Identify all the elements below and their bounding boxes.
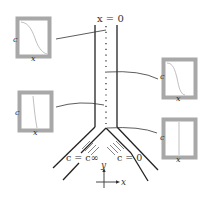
y-junction-diagram: x = 0 c = c∞ c = 0 y x c x c x c x [0,0,208,198]
leader-bottom-right [107,128,157,133]
inset-middle-left: c x [15,93,52,138]
inset-xlabel: x [176,94,181,103]
leader-lines [56,30,158,133]
axis-x-label: x [121,177,126,187]
origin-label: x = 0 [97,13,124,24]
axis-y-label: y [100,160,107,170]
inset-ylabel: c [160,72,165,81]
inset-ylabel: c [13,35,18,44]
leader-top-right [107,72,158,79]
inset-xlabel: x [33,128,38,137]
axes-indicator: y x [96,160,126,188]
leader-middle-left [56,103,104,107]
inset-xlabel: x [176,155,181,164]
inset-top-right: c x [160,60,196,104]
left-branch-outer-wall-lower [63,163,79,180]
inset-ylabel: c [160,133,165,142]
inset-bottom-right: c x [160,120,196,165]
inset-xlabel: x [31,54,36,63]
x-arrowhead-icon [116,180,120,183]
inlet-right-label: c = 0 [117,152,142,163]
branch-divider-left [81,128,106,153]
inset-top-left: c x [13,19,50,64]
leader-top-left [56,30,106,39]
inset-ylabel: c [15,108,20,117]
inlet-left-label: c = c∞ [66,152,99,163]
